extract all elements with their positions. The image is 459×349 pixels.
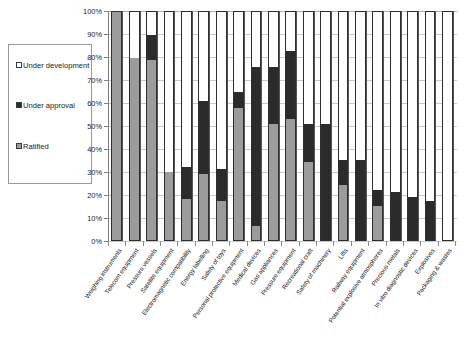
bar-segment-ratified — [269, 124, 278, 240]
bar-segment-under-approval — [426, 201, 435, 240]
bar-segment-under-development — [443, 12, 452, 240]
bar-segment-under-approval — [147, 35, 156, 60]
stacked-bar[interactable] — [303, 11, 314, 241]
stacked-bar[interactable] — [111, 11, 122, 241]
x-tick-mark — [265, 241, 282, 246]
bar-segment-under-development — [356, 12, 365, 160]
bar-slot — [387, 11, 404, 241]
x-label-slot: Safety of machinery — [317, 247, 334, 347]
stacked-bar[interactable] — [268, 11, 279, 241]
stacked-bar[interactable] — [390, 11, 401, 241]
x-tick-mark — [300, 241, 317, 246]
x-tick-mark — [144, 241, 161, 246]
y-tick-label: 60% — [74, 99, 102, 108]
stacked-bar[interactable] — [442, 11, 453, 241]
y-tick-label: 20% — [74, 191, 102, 200]
stacked-bar[interactable] — [216, 11, 227, 241]
bar-segment-under-development — [339, 12, 348, 160]
bar-segment-under-approval — [321, 124, 330, 240]
bar-segment-under-development — [165, 12, 174, 172]
stacked-bar[interactable] — [164, 11, 175, 241]
stacked-bar[interactable] — [146, 11, 157, 241]
stacked-bar[interactable] — [181, 11, 192, 241]
bar-slot — [160, 11, 177, 241]
bar-segment-under-approval — [217, 169, 226, 201]
stacked-bar[interactable] — [198, 11, 209, 241]
y-tick-mark — [104, 195, 108, 196]
stacked-bar[interactable] — [372, 11, 383, 241]
bar-slot — [334, 11, 351, 241]
stacked-bar[interactable] — [407, 11, 418, 241]
chart-legend: Under development Under approval Ratifie… — [8, 44, 92, 184]
y-tick-mark — [104, 126, 108, 127]
legend-label-under-approval: Under approval — [23, 101, 75, 111]
bar-slot — [108, 11, 125, 241]
x-tick-mark — [178, 241, 195, 246]
bar-segment-under-development — [252, 12, 261, 67]
x-tick-label: Lifts — [337, 247, 349, 260]
bar-slot — [369, 11, 386, 241]
bar-segment-ratified — [286, 119, 295, 240]
legend-swatch-white-icon — [16, 62, 22, 68]
chart-root: Under development Under approval Ratifie… — [0, 0, 459, 349]
x-axis-ticks — [108, 241, 456, 246]
bar-segment-under-development — [269, 12, 278, 67]
bar-segment-under-approval — [252, 67, 261, 227]
bar-segment-ratified — [182, 199, 191, 240]
stacked-bar[interactable] — [129, 11, 140, 241]
bar-slot — [247, 11, 264, 241]
legend-label-under-development: Under development — [23, 61, 89, 71]
x-tick-mark — [196, 241, 213, 246]
stacked-bar[interactable] — [285, 11, 296, 241]
bar-segment-under-approval — [234, 92, 243, 108]
bar-series-group — [108, 11, 456, 241]
y-tick-label: 80% — [74, 53, 102, 62]
bar-segment-under-development — [408, 12, 417, 197]
stacked-bar[interactable] — [425, 11, 436, 241]
bar-slot — [352, 11, 369, 241]
y-tick-label: 100% — [74, 7, 102, 16]
stacked-bar[interactable] — [233, 11, 244, 241]
bar-segment-ratified — [112, 12, 121, 240]
y-tick-mark — [104, 103, 108, 104]
legend-swatch-black-icon — [16, 102, 22, 108]
x-tick-mark — [317, 241, 334, 246]
bar-segment-ratified — [339, 185, 348, 240]
bar-segment-under-development — [217, 12, 226, 169]
y-tick-label: 50% — [74, 122, 102, 131]
y-tick-mark — [104, 218, 108, 219]
stacked-bar[interactable] — [251, 11, 262, 241]
stacked-bar[interactable] — [320, 11, 331, 241]
bar-segment-under-development — [426, 12, 435, 201]
bar-slot — [125, 11, 142, 241]
bar-segment-under-development — [373, 12, 382, 190]
bar-slot — [421, 11, 438, 241]
bar-segment-ratified — [199, 174, 208, 240]
y-tick-label: 70% — [74, 76, 102, 85]
bar-segment-under-approval — [269, 67, 278, 124]
bar-segment-under-development — [130, 12, 139, 58]
bar-segment-under-development — [391, 12, 400, 192]
stacked-bar[interactable] — [338, 11, 349, 241]
stacked-bar[interactable] — [355, 11, 366, 241]
x-tick-mark — [421, 241, 438, 246]
x-tick-mark — [108, 241, 126, 246]
x-tick-mark — [213, 241, 230, 246]
bar-slot — [230, 11, 247, 241]
bar-segment-under-approval — [182, 167, 191, 199]
y-tick-mark — [104, 80, 108, 81]
y-tick-mark — [104, 57, 108, 58]
bar-slot — [439, 11, 456, 241]
bar-segment-under-approval — [199, 101, 208, 174]
x-tick-mark — [230, 241, 247, 246]
legend-swatch-gray-icon — [16, 143, 22, 149]
bar-segment-under-development — [199, 12, 208, 101]
bar-slot — [265, 11, 282, 241]
x-axis-labels: Weighing instrumentsTelecom equipmentPre… — [108, 247, 456, 347]
y-tick-mark — [104, 149, 108, 150]
bar-segment-ratified — [217, 201, 226, 240]
bar-slot — [404, 11, 421, 241]
bar-segment-under-development — [147, 12, 156, 35]
bar-segment-ratified — [252, 226, 261, 240]
bar-segment-ratified — [304, 162, 313, 240]
